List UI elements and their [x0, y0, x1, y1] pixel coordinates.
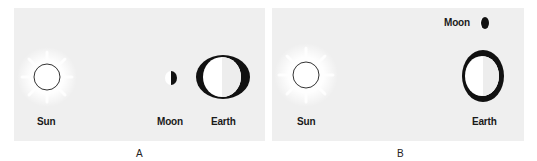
sun-icon [274, 43, 338, 107]
moon-icon [165, 71, 177, 85]
earth-icon [196, 55, 250, 99]
earth-label: Earth [211, 116, 236, 127]
panel-a-caption: A [136, 148, 143, 159]
moon-label: Moon [157, 116, 183, 127]
earth-label: Earth [472, 116, 497, 127]
sun-label: Sun [37, 116, 55, 127]
sun-icon [17, 47, 77, 107]
sun-label: Sun [297, 116, 315, 127]
earth-icon [462, 50, 504, 102]
moon-label: Moon [444, 17, 470, 28]
moon-icon [480, 17, 489, 29]
panel-b-caption: B [397, 148, 404, 159]
